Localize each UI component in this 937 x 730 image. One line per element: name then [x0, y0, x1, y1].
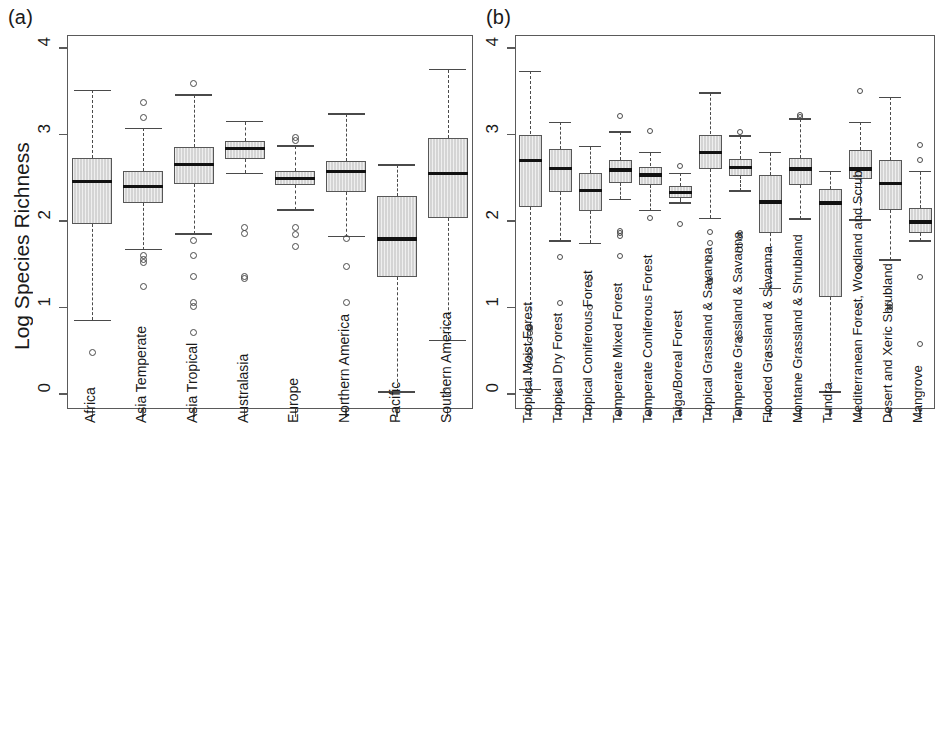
whisker-cap-lower — [729, 190, 750, 192]
median-line — [909, 220, 932, 223]
y-tick-label: 0 — [35, 383, 51, 392]
y-tick-label: 2 — [483, 210, 499, 219]
y-tick-label: 3 — [35, 124, 51, 133]
whisker-upper — [397, 165, 398, 196]
whisker-lower — [92, 224, 93, 320]
median-line — [729, 166, 752, 169]
y-tick-mark — [507, 307, 515, 309]
median-line — [699, 151, 722, 154]
outlier-point — [677, 221, 683, 227]
whisker-upper — [860, 122, 861, 150]
median-line — [669, 191, 692, 194]
whisker-lower — [830, 297, 831, 392]
outlier-point — [140, 283, 147, 290]
whisker-cap-upper — [175, 94, 212, 96]
x-tick-label: Temperate Grassland & Savanna — [730, 232, 745, 424]
outlier-point — [292, 224, 299, 231]
x-tick-label: Tropical Moist Forest — [520, 302, 535, 423]
x-tick-label: Tundra — [820, 382, 835, 423]
whisker-upper — [800, 119, 801, 158]
box-iqr — [759, 175, 782, 233]
median-line — [123, 185, 163, 188]
median-line — [377, 237, 417, 240]
whisker-upper — [346, 114, 347, 162]
y-tick-mark — [507, 220, 515, 222]
box-iqr — [428, 138, 468, 218]
outlier-point — [89, 349, 96, 356]
x-tick-label: Europe — [285, 378, 301, 423]
outlier-point — [617, 233, 623, 239]
panel-a-label: (a) — [8, 6, 33, 29]
x-tick-label: Australasia — [235, 354, 251, 423]
median-line — [275, 177, 315, 180]
y-tick-mark — [507, 47, 515, 49]
whisker-cap-lower — [277, 209, 314, 211]
whisker-lower — [194, 184, 195, 234]
whisker-cap-lower — [579, 243, 600, 245]
x-tick-label: Pacific — [387, 382, 403, 423]
whisker-lower — [346, 192, 347, 236]
whisker-upper — [245, 122, 246, 141]
whisker-cap-lower — [699, 218, 720, 220]
whisker-cap-lower — [74, 320, 111, 322]
box-iqr — [72, 158, 112, 225]
x-tick-label: Flooded Grassland & Savanna — [760, 246, 775, 423]
outlier-point — [241, 230, 248, 237]
x-tick-label: Tropical Coniferous Forest — [580, 270, 595, 423]
y-tick-mark — [59, 220, 67, 222]
median-line — [879, 182, 902, 185]
whisker-cap-upper — [699, 92, 720, 94]
median-line — [326, 170, 366, 173]
outlier-point — [917, 341, 923, 347]
whisker-upper — [770, 153, 771, 175]
y-tick-mark — [59, 393, 67, 395]
whisker-cap-upper — [378, 164, 415, 166]
x-tick-label: Southern America — [438, 312, 454, 423]
y-tick-label: 1 — [483, 297, 499, 306]
whisker-cap-lower — [609, 199, 630, 201]
whisker-cap-upper — [849, 122, 870, 124]
outlier-point — [140, 114, 147, 121]
x-tick-label: Tropical Dry Forest — [550, 313, 565, 423]
whisker-lower — [397, 277, 398, 392]
y-tick-label: 0 — [483, 383, 499, 392]
whisker-cap-lower — [549, 240, 570, 242]
whisker-upper — [143, 128, 144, 170]
box-iqr — [819, 189, 842, 297]
outlier-point — [292, 137, 299, 144]
outlier-point — [343, 263, 350, 270]
median-line — [819, 201, 842, 204]
whisker-cap-lower — [879, 259, 900, 261]
median-line — [72, 180, 112, 183]
whisker-upper — [680, 173, 681, 185]
whisker-upper — [560, 122, 561, 149]
whisker-cap-upper — [74, 90, 111, 92]
whisker-lower — [620, 183, 621, 199]
whisker-upper — [890, 97, 891, 160]
whisker-upper — [194, 95, 195, 148]
whisker-lower — [710, 169, 711, 218]
x-tick-label: Tropical Grassland & Savanna — [700, 247, 715, 423]
whisker-upper — [590, 147, 591, 173]
y-tick-mark — [507, 134, 515, 136]
x-tick-label: Desert and Xeric Shrubland — [880, 263, 895, 423]
median-line — [428, 172, 468, 175]
box-iqr — [609, 160, 632, 182]
whisker-cap-upper — [759, 152, 780, 154]
y-tick-mark — [59, 47, 67, 49]
whisker-cap-lower — [226, 173, 263, 175]
whisker-upper — [530, 71, 531, 134]
whisker-lower — [590, 211, 591, 244]
x-tick-label: Montane Grassland & Shrubland — [790, 234, 805, 423]
outlier-point — [140, 99, 147, 106]
whisker-cap-lower — [639, 210, 660, 212]
outlier-point — [140, 259, 147, 266]
x-tick-label: Asia Tropical — [184, 343, 200, 423]
y-tick-label: 1 — [35, 297, 51, 306]
whisker-cap-upper — [609, 131, 630, 133]
y-tick-label: 2 — [35, 210, 51, 219]
whisker-lower — [245, 159, 246, 174]
y-tick-label: 4 — [35, 37, 51, 46]
whisker-lower — [740, 176, 741, 191]
median-line — [759, 200, 782, 203]
